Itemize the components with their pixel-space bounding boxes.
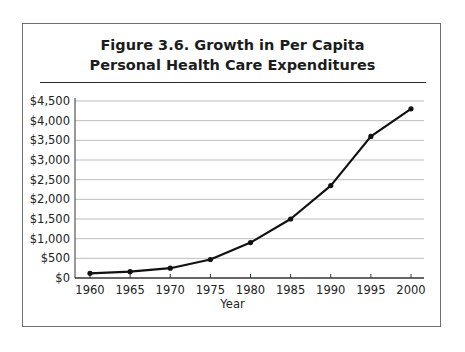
x-tick-label: 1980 [236, 283, 265, 297]
y-tick-label: $4,000 [30, 114, 70, 128]
x-tick-label: 1970 [156, 283, 185, 297]
y-tick-label: $1,500 [30, 212, 70, 226]
data-point-marker [328, 183, 333, 188]
y-tick-label: $3,500 [30, 133, 70, 147]
x-tick-label: 2000 [396, 283, 425, 297]
series-line [90, 109, 411, 273]
data-point-marker [368, 134, 373, 139]
y-tick-label: $2,000 [30, 192, 70, 206]
axes [75, 98, 424, 278]
data-point-marker [288, 216, 293, 221]
y-tick-label: $0 [55, 271, 70, 285]
data-point-marker [168, 266, 173, 271]
data-point-marker [248, 240, 253, 245]
x-tick-label: 1995 [356, 283, 385, 297]
x-axis-label: Year [0, 297, 465, 311]
data-series [87, 106, 413, 276]
data-point-marker [408, 106, 413, 111]
y-tick-label: $500 [41, 251, 70, 265]
x-tick-label: 1960 [75, 283, 104, 297]
x-tick-label: 1965 [115, 283, 144, 297]
gridlines [75, 101, 424, 258]
x-axis-tick-labels: 196019651970197519801985199019952000 [75, 283, 425, 297]
y-tick-label: $1,000 [30, 232, 70, 246]
y-axis-tick-labels: $0$500$1,000$1,500$2,000$2,500$3,000$3,5… [30, 94, 70, 285]
x-tick-label: 1990 [316, 283, 345, 297]
data-point-marker [128, 269, 133, 274]
data-point-marker [87, 271, 92, 276]
data-point-marker [208, 257, 213, 262]
y-tick-label: $4,500 [30, 94, 70, 108]
y-tick-label: $2,500 [30, 173, 70, 187]
x-tick-label: 1975 [196, 283, 225, 297]
y-tick-label: $3,000 [30, 153, 70, 167]
x-tick-label: 1985 [276, 283, 305, 297]
